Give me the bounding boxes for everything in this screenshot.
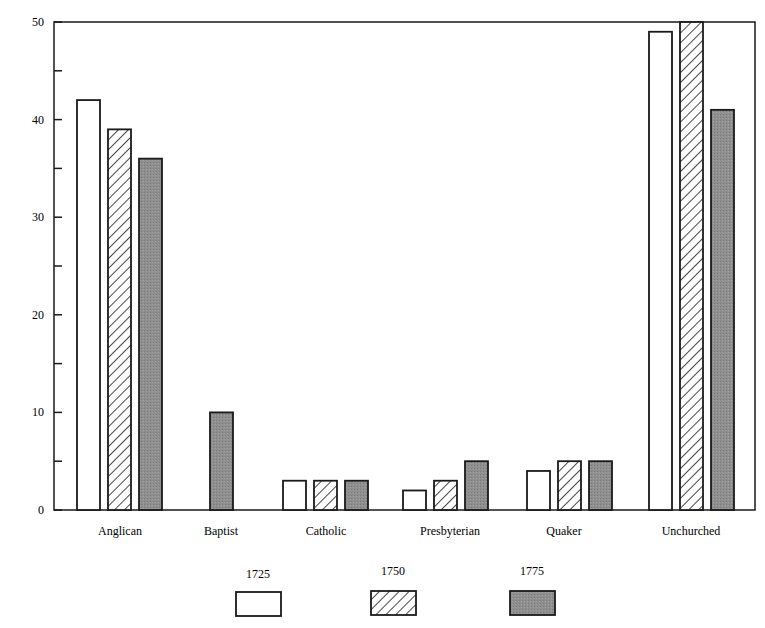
bar-catholic-1775 (345, 481, 368, 510)
bar-group-unchurched (649, 22, 734, 510)
bar-presbyterian-1750 (434, 481, 457, 510)
y-tick-label: 50 (32, 15, 44, 29)
bar-chart: 01020304050 AnglicanBaptistCatholicPresb… (0, 0, 765, 628)
legend-label: 1725 (246, 567, 270, 581)
bar-group-baptist (210, 412, 233, 510)
category-label: Catholic (306, 524, 347, 538)
bar-presbyterian-1725 (403, 490, 426, 510)
bar-unchurched-1750 (680, 22, 703, 510)
bar-quaker-1725 (527, 471, 550, 510)
y-axis: 01020304050 (32, 15, 62, 517)
y-tick-label: 30 (32, 210, 44, 224)
y-tick-label: 20 (32, 308, 44, 322)
bar-baptist-1775 (210, 412, 233, 510)
bar-presbyterian-1775 (465, 461, 488, 510)
bar-anglican-1725 (77, 100, 100, 510)
category-label: Baptist (204, 524, 239, 538)
y-tick-label: 40 (32, 113, 44, 127)
bar-anglican-1775 (139, 159, 162, 510)
bar-quaker-1750 (558, 461, 581, 510)
bar-group-catholic (283, 481, 368, 510)
bar-catholic-1725 (283, 481, 306, 510)
legend: 172517501775 (236, 564, 555, 616)
bar-catholic-1750 (314, 481, 337, 510)
y-tick-label: 0 (38, 503, 44, 517)
legend-swatch-white (236, 592, 281, 616)
bar-unchurched-1775 (711, 110, 734, 510)
bar-group-quaker (527, 461, 612, 510)
category-label: Unchurched (662, 524, 721, 538)
bar-group-anglican (77, 100, 162, 510)
bar-unchurched-1725 (649, 32, 672, 510)
category-label: Quaker (546, 524, 581, 538)
bar-group-presbyterian (403, 461, 488, 510)
bar-quaker-1775 (589, 461, 612, 510)
legend-swatch-gray (510, 591, 555, 615)
legend-item-1775: 1775 (510, 564, 555, 615)
legend-item-1750: 1750 (371, 564, 416, 615)
category-label: Presbyterian (420, 524, 480, 538)
legend-label: 1750 (381, 564, 405, 578)
legend-swatch-hatched (371, 591, 416, 615)
legend-label: 1775 (520, 564, 544, 578)
bars (77, 22, 734, 510)
legend-item-1725: 1725 (236, 567, 281, 616)
x-axis-labels: AnglicanBaptistCatholicPresbyterianQuake… (98, 524, 720, 538)
bar-anglican-1750 (108, 129, 131, 510)
y-tick-label: 10 (32, 405, 44, 419)
category-label: Anglican (98, 524, 142, 538)
